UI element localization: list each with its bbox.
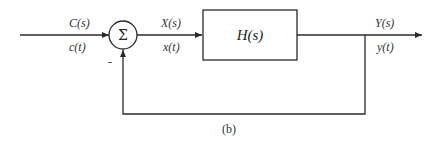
error-laplace-label: X(s): [160, 16, 181, 30]
input-time-label: c(t): [69, 40, 86, 54]
block-label: H(s): [236, 27, 264, 44]
figure-caption: (b): [222, 122, 236, 136]
feedback-sign: -: [108, 55, 112, 69]
input-laplace-label: C(s): [69, 16, 90, 30]
output-time-label: y(t): [376, 40, 394, 54]
error-time-label: x(t): [162, 40, 180, 54]
summing-junction: Σ: [109, 21, 137, 49]
output-laplace-label: Y(s): [375, 16, 394, 30]
block-diagram: C(s) c(t) Σ - X(s) x(t) H(s) Y(s) y(t) (…: [0, 0, 442, 145]
sigma-icon: Σ: [118, 27, 128, 43]
